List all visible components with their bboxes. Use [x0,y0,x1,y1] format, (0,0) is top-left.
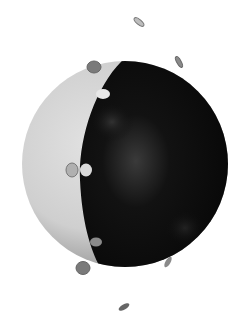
disc [96,89,110,99]
disc [87,61,101,73]
disc [80,164,92,177]
disc [66,163,78,177]
disc [118,302,131,312]
sphere-illustration [0,0,245,328]
disc [90,238,102,247]
disc [174,56,184,69]
disc [76,262,90,275]
disc [133,16,145,28]
